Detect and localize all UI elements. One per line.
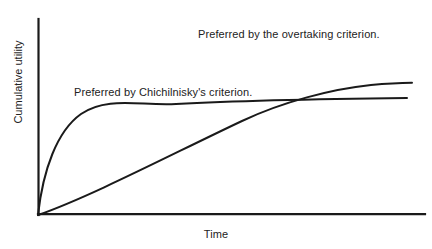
y-axis-label: Cumulative utility xyxy=(12,7,24,157)
x-axis-label: Time xyxy=(0,228,432,241)
annotation-overtaking-criterion: Preferred by the overtaking criterion. xyxy=(198,28,380,41)
chart-figure: Preferred by the overtaking criterion. P… xyxy=(0,0,432,249)
curve-chichilnisky-preferred xyxy=(38,98,407,215)
y-axis-label-container: Cumulative utility xyxy=(0,0,40,215)
annotation-chichilnisky-criterion: Preferred by Chichilnisky's criterion. xyxy=(74,86,252,99)
